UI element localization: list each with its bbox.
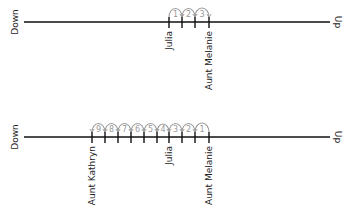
person-label: Aunt Kathryn <box>87 146 97 205</box>
jump-count: 8 <box>109 125 114 134</box>
person-label: Aunt Melanie <box>204 31 214 90</box>
person-label: Aunt Melanie <box>204 146 214 205</box>
person-label: Julia <box>164 31 174 51</box>
down-label: Down <box>10 124 20 150</box>
person-label: Julia <box>164 146 174 166</box>
jump-count: 5 <box>148 125 153 134</box>
jump-count: 2 <box>186 125 191 134</box>
jump-count: 7 <box>122 125 127 134</box>
up-label: Up <box>333 16 343 29</box>
jump-count: 4 <box>160 125 165 134</box>
up-label: Up <box>333 131 343 144</box>
number-line-bottom: DownUpAunt KathrynJuliaAunt Melanie12345… <box>10 123 343 205</box>
jump-count: 2 <box>186 10 191 19</box>
down-label: Down <box>10 9 20 35</box>
jump-count: 1 <box>173 10 178 19</box>
jump-count: 9 <box>96 125 101 134</box>
jump-count: 1 <box>199 125 204 134</box>
jump-count: 3 <box>199 10 204 19</box>
jump-count: 6 <box>135 125 140 134</box>
jump-count: 3 <box>173 125 178 134</box>
number-line-diagram: DownUpJuliaAunt Melanie123 DownUpAunt Ka… <box>0 0 351 216</box>
number-line-top: DownUpJuliaAunt Melanie123 <box>10 8 343 90</box>
